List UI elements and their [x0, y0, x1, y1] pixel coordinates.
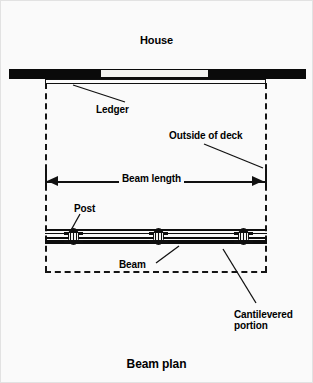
dimension-arrow-left-icon — [47, 176, 58, 186]
dimension-tick-right — [265, 169, 267, 188]
post-3-hatch — [239, 233, 248, 240]
ledger-label: Ledger — [96, 104, 129, 115]
outside-of-deck-label: Outside of deck — [169, 130, 243, 141]
post-1 — [68, 228, 79, 245]
beam-plan-figure: House Ledger Outside of deck Beam length… — [0, 0, 313, 383]
post-2 — [153, 228, 164, 245]
post-2-hatch — [154, 233, 163, 240]
cantilevered-portion-label-line2: portion — [234, 320, 268, 331]
beam-length-label: Beam length — [119, 173, 184, 184]
house-wall-opening — [101, 70, 208, 77]
post-2-cap-bottom — [149, 240, 168, 243]
cantilevered-portion-label-line1: Cantilevered — [234, 309, 293, 320]
beam-label: Beam — [119, 259, 146, 270]
house-wall-band — [9, 69, 306, 79]
deck-outline-bottom-edge — [45, 271, 267, 273]
beam-assembly — [45, 227, 267, 247]
post-label: Post — [74, 203, 95, 214]
post-1-cap-bottom — [64, 240, 83, 243]
post-3-cap-bottom — [234, 240, 253, 243]
house-title: House — [1, 34, 312, 46]
ledger-board — [45, 79, 266, 84]
post-1-hatch — [69, 233, 78, 240]
cantilevered-portion-label: Cantilevered portion — [234, 309, 293, 331]
figure-caption: Beam plan — [1, 358, 312, 371]
dimension-arrow-right-icon — [252, 176, 263, 186]
post-3 — [238, 228, 249, 245]
